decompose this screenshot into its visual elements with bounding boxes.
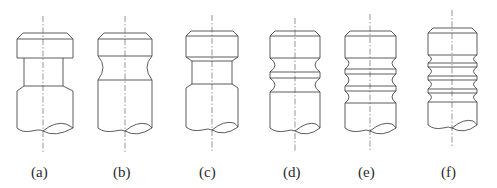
panel-e: (e) xyxy=(345,14,396,181)
valve-groove-diagram: (a) (b) (c) (d) (e) xyxy=(0,0,497,188)
label-c: (c) xyxy=(199,164,216,181)
panel-a: (a) xyxy=(17,16,73,181)
label-e: (e) xyxy=(358,164,375,181)
panel-b: (b) xyxy=(98,16,152,181)
label-f: (f) xyxy=(441,164,456,181)
profile-e xyxy=(345,31,396,134)
label-b: (b) xyxy=(113,164,131,181)
panel-c: (c) xyxy=(186,15,238,181)
panel-f: (f) xyxy=(428,10,477,181)
panel-d: (d) xyxy=(270,18,320,181)
label-a: (a) xyxy=(31,164,48,181)
label-d: (d) xyxy=(283,164,301,181)
profile-a xyxy=(17,33,73,134)
profile-f xyxy=(428,28,477,131)
